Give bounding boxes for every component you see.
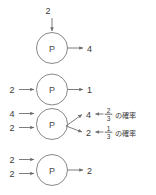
row-3-input-label-2: 2 (9, 123, 14, 133)
row-3-prob-numerator-1: 2 (107, 107, 111, 114)
row-3-output-label-1: 4 (86, 110, 91, 120)
row-3-probability-fraction-1: 2 3 (105, 107, 113, 122)
row-3-probability-fraction-2: 1 3 (105, 125, 113, 140)
row-1-node-label: P (49, 44, 55, 54)
row-3-node-label: P (49, 120, 55, 130)
row-3-output-label-2: 2 (86, 128, 91, 138)
row-4-node-label: P (49, 166, 55, 176)
row-2-group: 2 P 1 (9, 74, 92, 105)
row-3-prob-annotation-1: の確率 (115, 111, 136, 120)
row-3-prob-denominator-2: 3 (107, 133, 111, 140)
process-flow-diagram: 2 P 4 2 P 1 4 2 P 4 2 (0, 0, 156, 195)
row-3-prob-denominator-1: 3 (107, 115, 111, 122)
diagram-canvas: 2 P 4 2 P 1 4 2 P 4 2 (0, 0, 156, 195)
row-2-output-label: 1 (87, 85, 92, 95)
row-2-input-label: 2 (9, 85, 14, 95)
row-3-output-arrow-2 (66, 126, 82, 132)
row-3-output-arrow-1 (66, 115, 82, 127)
row-4-output-label: 2 (87, 166, 92, 176)
row-1-input-label: 2 (45, 6, 50, 16)
row-2-node-label: P (49, 85, 55, 95)
row-3-prob-numerator-2: 1 (107, 125, 111, 132)
row-3-prob-annotation-2: の確率 (115, 129, 136, 138)
row-1-group: 2 P 4 (37, 6, 93, 64)
row-3-group: 4 2 P 4 2 2 3 の確率 1 3 (9, 107, 135, 140)
row-3-input-label-1: 4 (9, 109, 14, 119)
row-4-group: 2 2 P 2 (9, 155, 92, 186)
row-1-output-label: 4 (87, 44, 92, 54)
row-4-input-label-1: 2 (9, 155, 14, 165)
row-4-input-label-2: 2 (9, 169, 14, 179)
